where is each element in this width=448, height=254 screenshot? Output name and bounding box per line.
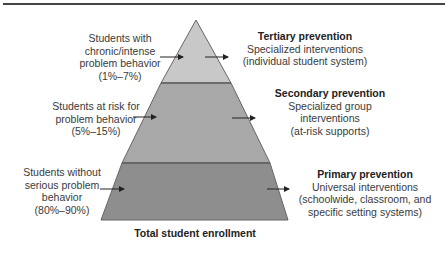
base-label: Total student enrollment <box>100 227 290 239</box>
tier-primary <box>101 163 288 220</box>
label-at-risk: Students at risk for problem behavior (5… <box>40 100 152 138</box>
label-without: Students without serious problem behavio… <box>14 166 110 216</box>
label-chronic: Students with chronic/intense problem be… <box>72 32 168 82</box>
label-primary: Primary prevention Universal interventio… <box>290 168 440 218</box>
label-tertiary: Tertiary prevention Specialized interven… <box>230 30 380 68</box>
label-secondary: Secondary prevention Specialized group i… <box>255 87 405 137</box>
tier-tertiary <box>161 20 231 83</box>
